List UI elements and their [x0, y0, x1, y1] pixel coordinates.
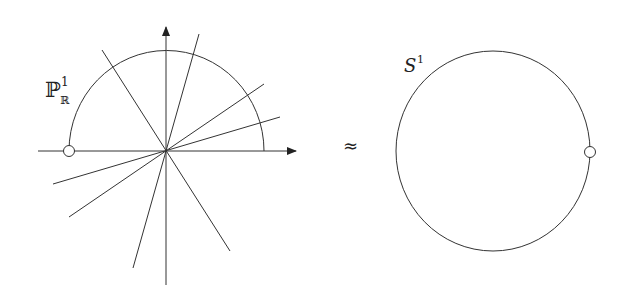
- circle-s1: [396, 51, 590, 251]
- open-point-marker-right: [585, 147, 596, 158]
- circle-label-sup: 1: [417, 53, 424, 66]
- open-point-marker: [64, 146, 75, 157]
- circle-label: S: [404, 55, 416, 76]
- homeomorphic-symbol: ≈: [343, 135, 358, 156]
- projective-line-sup: 1: [61, 75, 69, 89]
- left-figure: [38, 27, 296, 285]
- right-figure: [396, 51, 596, 251]
- projective-line-label: ℙ: [45, 78, 61, 102]
- projective-line-sub: ℝ: [60, 94, 70, 107]
- diagram-canvas: ℙ 1 ℝ ≈ S 1: [0, 0, 627, 291]
